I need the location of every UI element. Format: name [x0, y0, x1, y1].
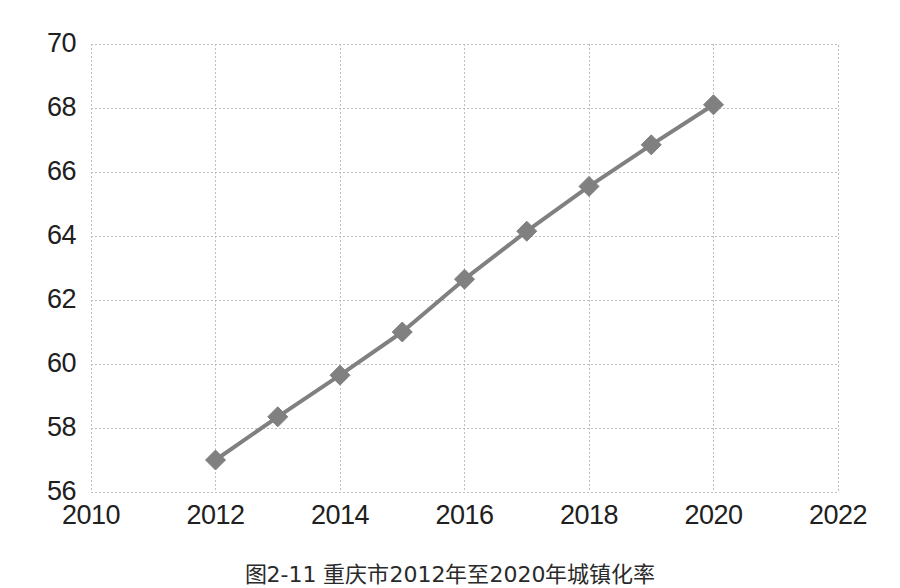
x-axis-tick-label: 2018 [534, 500, 644, 530]
figure-caption: 图2-11 重庆市2012年至2020年城镇化率 [0, 562, 900, 588]
x-axis-tick-labels: 2010201220142016201820202022 [0, 0, 900, 588]
x-axis-tick-label: 2016 [410, 500, 520, 530]
x-axis-tick-label: 2022 [783, 500, 893, 530]
chart-page: 7068666462605856 20102012201420162018202… [0, 0, 900, 588]
x-axis-tick-label: 2010 [36, 500, 146, 530]
line-chart-figure: 7068666462605856 20102012201420162018202… [0, 0, 900, 588]
x-axis-tick-label: 2012 [161, 500, 271, 530]
x-axis-tick-label: 2014 [285, 500, 395, 530]
x-axis-tick-label: 2020 [659, 500, 769, 530]
